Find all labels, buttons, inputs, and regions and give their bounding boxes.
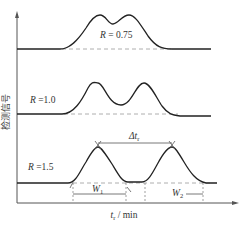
resolution-label: R = 0.75	[99, 30, 133, 40]
y-axis-label: 检测信号	[0, 94, 11, 130]
x-axis-label: tr / min	[111, 210, 138, 221]
apex-marker-1	[95, 141, 101, 149]
delta-tr-label: Δtr	[128, 131, 140, 142]
curve-r-1.0: R =1.0	[17, 82, 211, 116]
curve-r-0.75: R = 0.75	[17, 15, 211, 49]
chromatogram-resolution-diagram: 检测信号 R = 0.75 R =1.0 R =1.5 Δtr W1	[0, 0, 249, 226]
curve-r-1.5: R =1.5 Δtr W1 W2	[17, 131, 217, 203]
resolution-label: R =1.0	[29, 95, 56, 105]
x-axis-arrow-icon	[232, 201, 239, 205]
w1-label: W1	[92, 184, 103, 195]
tangent-mark	[127, 187, 131, 192]
w2-label: W2	[172, 188, 183, 199]
y-axis-arrow-icon	[15, 11, 19, 18]
diagram-canvas: 检测信号 R = 0.75 R =1.0 R =1.5 Δtr W1	[0, 0, 249, 226]
apex-marker-2	[169, 141, 175, 149]
resolution-label: R =1.5	[27, 162, 54, 172]
